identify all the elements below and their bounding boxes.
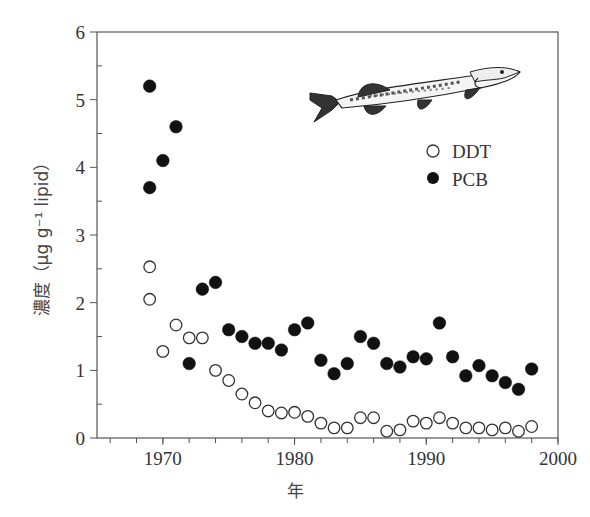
legend-pcb-marker-icon	[427, 172, 439, 184]
pcb-data-point	[446, 351, 459, 364]
ddt-data-point	[513, 425, 525, 437]
y-tick-label: 6	[76, 22, 86, 43]
y-tick-label: 2	[76, 293, 86, 314]
ddt-data-point	[210, 365, 222, 377]
legend-ddt-marker-icon	[427, 145, 439, 157]
pcb-data-point	[301, 317, 314, 330]
x-tick-label: 1980	[276, 448, 314, 469]
ddt-data-point	[473, 422, 485, 434]
legend-ddt-label: DDT	[452, 141, 491, 162]
pcb-data-point	[236, 330, 249, 343]
pcb-data-point	[183, 357, 196, 370]
ddt-data-point	[394, 424, 406, 436]
x-tick-label: 2000	[539, 448, 577, 469]
pcb-data-point	[486, 369, 499, 382]
ddt-data-point	[381, 425, 393, 437]
pike-fish-illustration	[310, 68, 520, 123]
pcb-data-point	[143, 80, 156, 93]
ddt-data-point	[197, 332, 209, 344]
y-tick-label: 5	[76, 90, 86, 111]
pcb-data-point	[315, 354, 328, 367]
ddt-data-point	[407, 415, 419, 427]
ddt-data-point	[500, 422, 512, 434]
y-tick-label: 4	[76, 157, 86, 178]
ddt-data-point	[144, 261, 156, 273]
pcb-data-point	[394, 361, 407, 374]
pcb-data-point	[222, 323, 235, 336]
pcb-data-point	[341, 357, 354, 370]
pcb-data-point	[512, 383, 525, 396]
pcb-data-point	[407, 351, 420, 364]
pcb-data-point	[328, 367, 341, 380]
ddt-data-point	[460, 422, 472, 434]
pcb-data-point	[275, 344, 288, 357]
data-points	[143, 80, 538, 437]
pcb-data-point	[143, 181, 156, 194]
legend: DDT PCB	[427, 141, 491, 190]
pcb-data-point	[262, 337, 275, 350]
ddt-data-point	[302, 411, 314, 423]
ddt-data-point	[434, 412, 446, 424]
pcb-data-point	[460, 369, 473, 382]
chart-canvas: 01234561970198019902000 DDT PCB 年 濃度（μg …	[0, 0, 590, 517]
pcb-data-point	[249, 337, 262, 350]
ddt-data-point	[249, 397, 261, 409]
x-tick-label: 1970	[144, 448, 182, 469]
legend-pcb-label: PCB	[452, 169, 488, 190]
ddt-data-point	[447, 417, 459, 429]
ddt-data-point	[355, 412, 367, 424]
ddt-data-point	[276, 407, 288, 419]
ddt-data-point	[157, 346, 169, 358]
pcb-data-point	[367, 337, 380, 350]
ddt-data-point	[144, 293, 156, 305]
ddt-data-point	[289, 406, 301, 418]
y-tick-label: 3	[76, 225, 86, 246]
ddt-data-point	[183, 332, 195, 344]
ddt-data-point	[341, 422, 353, 434]
ddt-data-point	[328, 422, 340, 434]
y-axis-title: 濃度（μg g⁻¹ lipid）	[32, 154, 52, 317]
ddt-data-point	[315, 417, 327, 429]
pcb-data-point	[499, 376, 512, 389]
pcb-data-point	[525, 363, 538, 376]
ddt-data-point	[223, 375, 235, 387]
pcb-data-point	[196, 283, 209, 296]
ddt-data-point	[526, 421, 538, 433]
pcb-data-point	[209, 276, 222, 289]
ddt-data-point	[262, 405, 274, 417]
y-tick-label: 0	[76, 428, 86, 449]
ddt-data-point	[486, 424, 498, 436]
ddt-data-point	[236, 388, 248, 400]
ddt-data-point	[420, 417, 432, 429]
ddt-data-point	[170, 319, 182, 331]
pcb-data-point	[473, 359, 486, 372]
ddt-data-point	[368, 412, 380, 424]
pcb-data-point	[433, 317, 446, 330]
x-axis-title: 年	[287, 481, 304, 501]
pcb-data-point	[420, 353, 433, 366]
y-tick-label: 1	[76, 360, 86, 381]
x-tick-label: 1990	[407, 448, 445, 469]
pcb-data-point	[288, 323, 301, 336]
pcb-data-point	[157, 154, 170, 167]
pcb-data-point	[170, 120, 183, 133]
pcb-data-point	[354, 330, 367, 343]
pcb-data-point	[380, 357, 393, 370]
